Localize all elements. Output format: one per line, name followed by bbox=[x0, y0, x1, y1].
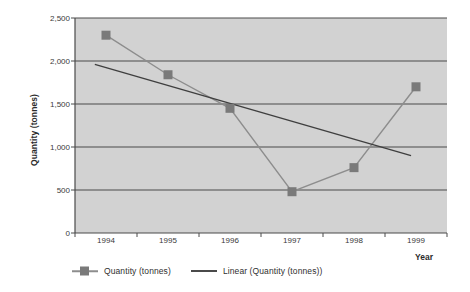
x-tick-label: 1996 bbox=[199, 236, 261, 252]
x-tick-label: 1994 bbox=[75, 236, 137, 252]
y-tick-label: 500 bbox=[24, 186, 70, 195]
x-tick-label: 1997 bbox=[261, 236, 323, 252]
y-tick-label: 2,000 bbox=[24, 57, 70, 66]
data-point-marker bbox=[288, 187, 297, 196]
x-tick-label: 1999 bbox=[385, 236, 447, 252]
legend-line-icon bbox=[191, 270, 217, 272]
x-tick-label: 1995 bbox=[137, 236, 199, 252]
data-point-marker bbox=[412, 82, 421, 91]
data-point-marker bbox=[226, 104, 235, 113]
data-point-marker bbox=[350, 163, 359, 172]
y-tick-label: 0 bbox=[24, 229, 70, 238]
y-tick-label: 2,500 bbox=[24, 14, 70, 23]
legend-item-quantity: Quantity (tonnes) bbox=[72, 266, 171, 276]
y-tick-label: 1,000 bbox=[24, 143, 70, 152]
legend-marker-icon bbox=[72, 266, 98, 276]
data-point-marker bbox=[102, 31, 111, 40]
legend-label-linear-trend: Linear (Quantity (tonnes)) bbox=[223, 266, 322, 276]
x-axis-title: Year bbox=[415, 252, 433, 262]
chart-container: Quantity (tonnes) 05001,0001,5002,0002,5… bbox=[0, 0, 470, 292]
x-axis-tick-labels: 199419951996199719981999 bbox=[75, 236, 447, 252]
x-tick-label: 1998 bbox=[323, 236, 385, 252]
legend-label-quantity: Quantity (tonnes) bbox=[104, 266, 171, 276]
y-axis-tick-labels: 05001,0001,5002,0002,500 bbox=[18, 0, 70, 292]
y-tick-label: 1,500 bbox=[24, 100, 70, 109]
legend-item-linear-trend: Linear (Quantity (tonnes)) bbox=[191, 266, 322, 276]
chart-legend: Quantity (tonnes) Linear (Quantity (tonn… bbox=[72, 266, 322, 276]
data-point-marker bbox=[164, 70, 173, 79]
